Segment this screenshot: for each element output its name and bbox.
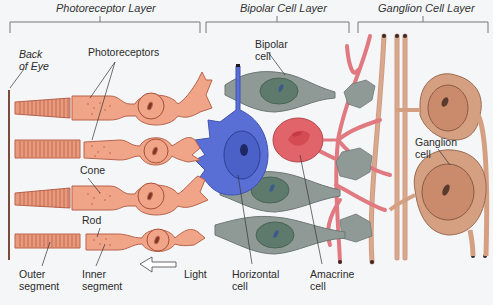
ganglion-cell-line2: cell	[415, 148, 457, 160]
light-arrow-icon	[140, 257, 176, 272]
ganglion-cell-label: Ganglion cell	[415, 136, 457, 160]
photoreceptor-layer-header: Photoreceptor Layer	[56, 2, 156, 14]
ganglion-axons	[371, 36, 405, 262]
retina-diagram: Photoreceptor Layer Bipolar Cell Layer G…	[0, 0, 493, 305]
bipolar-cell-line1: Bipolar	[255, 38, 288, 50]
outer-segment-label: Outer segment	[19, 268, 59, 292]
outer-segment-line1: Outer	[19, 268, 59, 280]
cone-label: Cone	[80, 164, 105, 176]
inner-segment-line2: segment	[82, 280, 122, 292]
horizontal-cell-line1: Horizontal	[232, 268, 279, 280]
rod-label: Rod	[82, 214, 101, 226]
inner-segment-label: Inner segment	[82, 268, 122, 292]
back-of-eye-line2: of Eye	[19, 60, 49, 72]
outer-segment-stripes	[20, 98, 76, 247]
bipolar-cell-label: Bipolar cell	[255, 38, 288, 62]
outer-segment-line2: segment	[19, 280, 59, 292]
amacrine-cell-label: Amacrine cell	[310, 268, 354, 292]
bipolar-cell-line2: cell	[255, 50, 288, 62]
ganglion-layer-header: Ganglion Cell Layer	[378, 2, 475, 14]
inner-segment-line1: Inner	[82, 268, 122, 280]
back-of-eye-label: Back of Eye	[19, 48, 49, 72]
ganglion-cell-line1: Ganglion	[415, 136, 457, 148]
amacrine-cell-line1: Amacrine	[310, 268, 354, 280]
photoreceptors	[15, 72, 212, 252]
layer-brackets	[10, 16, 488, 33]
amacrine-cell-line2: cell	[310, 280, 354, 292]
horizontal-cell-line2: cell	[232, 280, 279, 292]
horizontal-cell-label: Horizontal cell	[232, 268, 279, 292]
photoreceptors-label: Photoreceptors	[88, 46, 159, 58]
bipolar-layer-header: Bipolar Cell Layer	[240, 2, 327, 14]
light-label: Light	[184, 268, 207, 280]
back-of-eye-line1: Back	[19, 48, 49, 60]
